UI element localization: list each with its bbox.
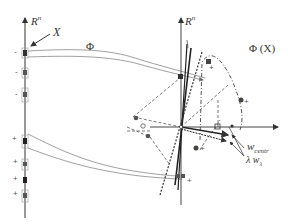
sign-plus: + xyxy=(13,189,18,198)
sign-plus: + xyxy=(13,157,18,166)
sign-plus: + xyxy=(13,174,18,183)
lambda-w-label: λ wλ xyxy=(246,154,262,167)
sign-plus: + xyxy=(209,63,214,72)
kernel-mapping-diagram xyxy=(0,0,290,224)
sign-plus: + xyxy=(12,134,17,143)
mapping-label: Φ xyxy=(86,40,94,52)
set-x-pointer xyxy=(31,34,50,46)
sign-plus: + xyxy=(244,97,249,106)
sign-minus: - xyxy=(14,47,17,56)
w-centr-label: wcentr xyxy=(247,140,269,155)
sign-plus: + xyxy=(200,144,205,153)
feature-space-label: Rn xyxy=(185,14,195,27)
mapped-set-label: Φ (X) xyxy=(249,42,275,54)
input-space-label: Rn xyxy=(31,14,41,27)
label-pointers xyxy=(229,127,244,156)
sign-minus: - xyxy=(15,67,18,76)
dashed-constructs xyxy=(127,78,228,165)
mapping-curves-lower xyxy=(28,134,182,179)
sign-minus: - xyxy=(15,89,18,98)
set-x-label: X xyxy=(53,25,60,40)
sign-plus: + xyxy=(187,176,192,185)
weight-vectors xyxy=(181,127,228,141)
